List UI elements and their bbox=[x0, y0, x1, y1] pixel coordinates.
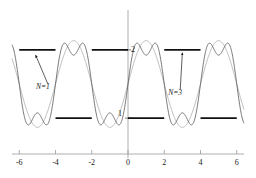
annotation-arrow bbox=[36, 55, 48, 84]
x-axis-tick-label: 6 bbox=[225, 158, 249, 167]
annotation-label-n3: N=3 bbox=[168, 88, 182, 97]
annotation-arrow bbox=[180, 53, 182, 90]
x-axis-tick-label: 4 bbox=[189, 158, 213, 167]
x-axis-tick-label: -6 bbox=[7, 158, 31, 167]
x-axis-tick-label: 0 bbox=[116, 158, 140, 167]
y-axis-upper-level-label: 2 bbox=[131, 45, 135, 54]
x-axis-tick-label: 2 bbox=[152, 158, 176, 167]
x-axis-tick-label: -4 bbox=[44, 158, 68, 167]
x-axis-tick-label: -2 bbox=[80, 158, 104, 167]
y-axis-lower-level-label: 1 bbox=[118, 109, 122, 118]
x-axis-ticks bbox=[19, 150, 237, 154]
annotation-label-n1: N=1 bbox=[36, 82, 50, 91]
fourier-square-wave-figure: -6-4-20246 2 1 N=1 N=3 bbox=[0, 0, 256, 178]
